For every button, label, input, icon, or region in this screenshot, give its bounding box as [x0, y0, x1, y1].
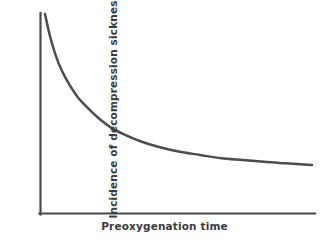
y-axis-title-container: Incidence of decompression sickness — [0, 0, 46, 214]
chart-figure: Incidence of decompression sickness Preo… — [0, 0, 329, 244]
y-axis-title: Incidence of decompression sickness — [108, 0, 119, 220]
decay-curve — [45, 14, 312, 165]
chart-plot-area — [0, 0, 329, 244]
x-axis-title: Preoxygenation time — [0, 221, 329, 232]
